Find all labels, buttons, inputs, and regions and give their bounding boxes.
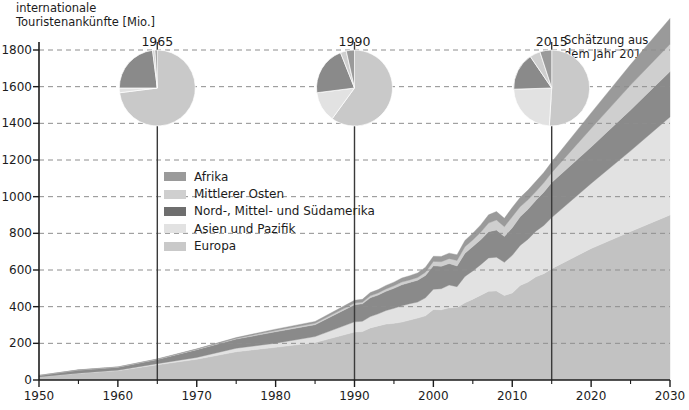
legend-item-0: Afrika <box>164 168 375 185</box>
chart-legend: AfrikaMittlerer OstenNord-, Mittel- und … <box>164 168 375 255</box>
legend-item-1: Mittlerer Osten <box>164 185 375 202</box>
y-tick-label: 0 <box>0 373 32 387</box>
x-tick-label: 1950 <box>12 389 66 403</box>
y-tick-label: 1800 <box>0 43 32 57</box>
legend-item-4: Europa <box>164 238 375 255</box>
pie-slice <box>119 50 157 88</box>
legend-item-2: Nord-, Mittel- und Südamerika <box>164 203 375 220</box>
legend-swatch-icon <box>164 172 186 181</box>
y-tick-label: 1600 <box>0 80 32 94</box>
x-tick-label: 2000 <box>406 389 460 403</box>
y-tick-label: 800 <box>0 226 32 240</box>
pie-year-label-2015: 2015 <box>522 34 582 49</box>
legend-item-3: Asien und Pazifik <box>164 220 375 237</box>
x-tick-label: 1970 <box>170 389 224 403</box>
legend-swatch-icon <box>164 224 186 233</box>
x-tick-label: 1980 <box>249 389 303 403</box>
x-tick-label: 2030 <box>643 389 689 403</box>
pie-slice <box>514 88 552 126</box>
y-tick-label: 1400 <box>0 116 32 130</box>
x-tick-label: 2020 <box>564 389 618 403</box>
y-tick-label: 200 <box>0 336 32 350</box>
legend-swatch-icon <box>164 190 186 199</box>
pie-year-label-1965: 1965 <box>127 34 187 49</box>
pie-chart-2015 <box>514 50 590 126</box>
legend-label: Nord-, Mittel- und Südamerika <box>194 204 375 218</box>
legend-label: Asien und Pazifik <box>194 222 295 236</box>
pie-year-label-1990: 1990 <box>325 34 385 49</box>
x-tick-label: 1960 <box>91 389 145 403</box>
x-tick-label: 2010 <box>485 389 539 403</box>
pie-chart-1990 <box>317 50 393 126</box>
y-tick-label: 1200 <box>0 153 32 167</box>
y-tick-label: 1000 <box>0 190 32 204</box>
legend-swatch-icon <box>164 242 186 251</box>
x-tick-label: 1990 <box>328 389 382 403</box>
pie-slice <box>549 50 589 126</box>
pie-chart-1965 <box>119 50 195 126</box>
legend-label: Europa <box>194 239 236 253</box>
y-tick-label: 400 <box>0 300 32 314</box>
y-tick-label: 600 <box>0 263 32 277</box>
legend-label: Afrika <box>194 170 228 184</box>
legend-swatch-icon <box>164 207 186 216</box>
legend-label: Mittlerer Osten <box>194 187 284 201</box>
